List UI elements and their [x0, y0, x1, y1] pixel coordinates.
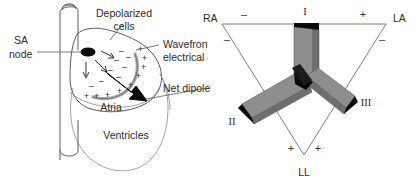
- vertex-label-LA: LA: [393, 12, 406, 24]
- lead-vectors: [238, 23, 358, 124]
- polarity-lead-II-positive: +: [288, 142, 294, 154]
- polarity-lead-I-negative: –: [241, 8, 248, 20]
- polarity-lead-III-positive: +: [315, 142, 321, 154]
- polarity-lead-I-positive: +: [360, 8, 366, 20]
- lead-label-III: III: [361, 97, 372, 108]
- polarity-lead-II-negative: –: [224, 33, 231, 45]
- einthovens-triangle: RA LA LL I II III – + – – + +: [200, 0, 416, 183]
- polarity-lead-III-negative: –: [379, 33, 386, 45]
- lead-III-vector: [304, 68, 358, 114]
- vertex-label-LL: LL: [298, 166, 310, 178]
- lead-label-I: I: [303, 6, 307, 17]
- figure-container: – – – – – – – – + + + + + + + + +: [0, 0, 416, 183]
- lead-label-II: II: [229, 116, 236, 127]
- vertex-label-RA: RA: [203, 12, 218, 24]
